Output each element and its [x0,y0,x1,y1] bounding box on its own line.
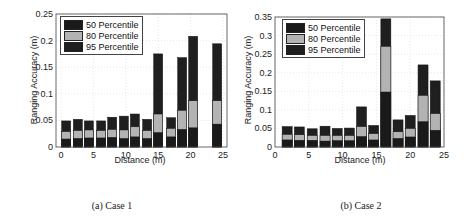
bar-50 [357,137,367,147]
bar-50 [405,137,415,147]
bar-50 [282,140,292,147]
panel-case-1: 00.050.10.150.20.250510152025 50 Percent… [0,0,240,216]
bar-50 [393,138,403,147]
legend-item-80: 80 Percentile [64,30,139,41]
bar-50 [130,137,139,147]
bar-50 [73,138,82,147]
bar-50 [143,138,152,147]
y-tick-label: 0.1 [40,89,53,99]
legend-item-50: 50 Percentile [286,22,361,33]
legend-item-80: 80 Percentile [286,33,361,44]
legend-case-1: 50 Percentile 80 Percentile 95 Percentil… [60,16,143,55]
legend-label: 80 Percentile [308,34,361,44]
bar-50 [154,133,163,147]
y-tick-label: 0.2 [259,68,272,78]
x-tick-label: 25 [218,150,228,160]
x-axis-label: Distance (m) [80,155,200,165]
swatch-95-icon [286,45,305,55]
bar-50 [62,139,71,147]
y-tick-label: 0.15 [254,86,272,96]
bar-50 [119,138,128,147]
bar-50 [320,141,330,147]
swatch-95-icon [64,42,83,52]
y-tick-label: 0.1 [259,105,272,115]
x-axis-label: Distance (m) [300,155,420,165]
bar-50 [108,137,117,147]
legend-label: 50 Percentile [308,23,361,33]
legend-label: 95 Percentile [308,45,361,55]
legend-item-50: 50 Percentile [64,19,139,30]
bar-50 [213,124,222,147]
y-tick-label: 0.05 [254,123,272,133]
x-tick-label: 0 [272,150,277,160]
y-tick-label: 0.2 [40,36,53,46]
x-tick-label: 0 [58,150,63,160]
y-tick-label: 0 [48,142,53,152]
bar-50 [344,141,354,147]
x-tick-label: 25 [439,150,449,160]
y-tick-label: 0.35 [254,12,272,22]
y-tick-label: 0 [267,142,272,152]
legend-label: 80 Percentile [86,31,139,41]
bar-50 [294,140,304,147]
bar-50 [332,141,342,147]
legend-label: 95 Percentile [86,42,139,52]
y-axis-label: Ranging Accuracy (m) [243,20,253,140]
bar-50 [178,129,187,147]
bar-50 [381,92,391,147]
swatch-50-icon [64,20,83,30]
bar-50 [167,137,176,147]
legend-case-2: 50 Percentile 80 Percentile 95 Percentil… [282,19,365,58]
legend-item-95: 95 Percentile [64,41,139,52]
y-tick-label: 0.3 [259,31,272,41]
swatch-80-icon [286,34,305,44]
bar-50 [369,140,379,147]
caption-case-1: (a) Case 1 [52,200,172,211]
bar-50 [418,122,428,147]
bar-50 [84,138,93,147]
bar-50 [189,128,198,147]
bar-50 [430,130,440,147]
y-tick-label: 0.25 [254,49,272,59]
panel-case-2: 00.050.10.150.20.250.30.350510152025 50 … [240,0,471,216]
legend-label: 50 Percentile [86,20,139,30]
legend-item-95: 95 Percentile [286,44,361,55]
swatch-80-icon [64,31,83,41]
y-tick-label: 0.25 [35,9,53,19]
bar-50 [307,140,317,147]
swatch-50-icon [286,23,305,33]
caption-case-2: (b) Case 2 [301,200,421,211]
bar-50 [97,138,106,147]
y-axis-label: Ranging Accuracy (m) [29,20,39,140]
